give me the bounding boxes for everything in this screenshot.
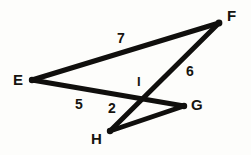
vertex-label-E: E <box>13 72 23 87</box>
vertex-point-G <box>181 103 187 109</box>
figure-canvas <box>0 0 251 155</box>
geometry-figure: E F G H I 7 6 5 2 <box>0 0 251 155</box>
vertex-label-H: H <box>91 131 102 146</box>
vertex-point-E <box>29 77 35 83</box>
measure-label-7: 7 <box>117 31 125 45</box>
vertex-point-F <box>216 20 223 27</box>
vertex-point-H <box>107 128 113 134</box>
measure-label-6: 6 <box>186 64 194 78</box>
vertex-label-G: G <box>191 97 203 112</box>
measure-label-5: 5 <box>75 97 83 111</box>
vertex-label-F: F <box>227 8 236 23</box>
vertex-label-I: I <box>137 75 141 88</box>
measure-label-2: 2 <box>108 101 116 115</box>
